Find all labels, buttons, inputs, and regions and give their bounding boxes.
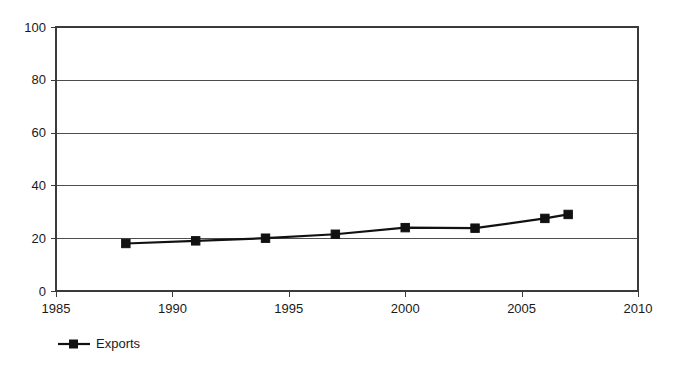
x-tick-label-1990: 1990 [158,301,187,316]
chart-canvas: 020406080100 198519901995200020052010 Ex… [0,0,683,372]
x-tick-label-2010: 2010 [624,301,653,316]
y-tick-label-60: 60 [32,125,46,140]
data-point-2000: Exports 2000: 24 [401,223,409,231]
x-tick-label-2005: 2005 [507,301,536,316]
data-point-1997: Exports 1997: 21.5 [331,230,339,238]
x-tick-label-2000: 2000 [391,301,420,316]
y-tick-label-80: 80 [32,72,46,87]
y-tick-label-20: 20 [32,231,46,246]
x-tick-label-1995: 1995 [274,301,303,316]
data-point-2003: Exports 2003: 23.8 [471,224,479,232]
y-tick-label-40: 40 [32,178,46,193]
legend-label-0: Exports [96,336,141,351]
data-point-1991: Exports 1991: 19 [191,237,199,245]
y-tick-label-100: 100 [24,20,46,35]
y-tick-label-0: 0 [39,284,46,299]
legend-marker-0 [69,340,78,349]
line-chart: 020406080100 198519901995200020052010 Ex… [0,0,683,372]
data-point-1988: Exports 1988: 18 [122,239,130,247]
data-point-2007: Exports 2007: 29 [564,210,572,218]
data-point-1994: Exports 1994: 20 [261,234,269,242]
x-tick-label-1985: 1985 [42,301,71,316]
data-point-2006: Exports 2006: 27.5 [541,214,549,222]
